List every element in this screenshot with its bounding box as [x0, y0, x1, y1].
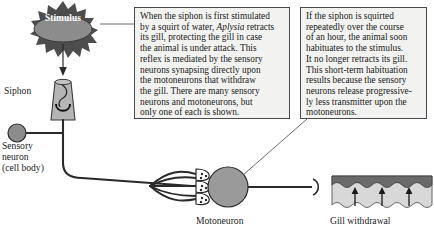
callout-line: motoneurons.: [306, 107, 422, 118]
sensory-neuron-label-line2: neuron: [2, 151, 44, 162]
callout-line: the animal is under attack. This: [140, 43, 285, 54]
callout-line: habituates to the stimulus.: [306, 43, 422, 54]
sensory-neuron-label: Sensory neuron (cell body): [2, 140, 44, 173]
gill-withdrawal-label: Gill withdrawal: [330, 215, 390, 226]
synapse-terminals: [196, 169, 209, 205]
figure-canvas: When the siphon is first stimulated by a…: [0, 0, 434, 236]
axon-terminal-branches: [150, 172, 196, 201]
motoneuron-axon-terminal: [313, 179, 318, 195]
siphon-label: Siphon: [4, 85, 31, 96]
callout-line: reflex is mediated by the sensory: [140, 54, 285, 65]
callout-line: by a squirt of water, Aplysia retracts: [140, 22, 285, 33]
siphon-shape: [51, 79, 75, 120]
callout-line: results because the sensory: [306, 75, 422, 86]
habituation-description-callout: If the siphon is squirted repeatedly ove…: [300, 7, 427, 119]
callout-line: ly less transmitter upon the: [306, 97, 422, 108]
habituation-leader-line: [243, 119, 307, 175]
motoneuron-soma: [208, 167, 248, 207]
stimulus-starburst-icon: [30, 1, 98, 58]
callout-line: If the siphon is squirted: [306, 11, 422, 22]
sensory-neuron-label-line1: Sensory: [2, 140, 44, 151]
callout-line: repeatedly over the course: [306, 22, 422, 33]
callout-line: This short-term habituation: [306, 65, 422, 76]
callout-line: It no longer retracts its gill.: [306, 54, 422, 65]
motoneuron-label: Motoneuron: [196, 215, 243, 226]
callout-line: of an hour, the animal soon: [306, 32, 422, 43]
reflex-description-callout: When the siphon is first stimulated by a…: [134, 7, 290, 119]
callout-line: the motoneurons that withdraw: [140, 75, 285, 86]
sensory-axon: [63, 120, 192, 186]
callout-line: neurons release progressive-: [306, 86, 422, 97]
callout-line: neurons synapsing directly upon: [140, 65, 285, 76]
callout-line: only one of each is shown.: [140, 107, 285, 118]
callout-line: its gill, protecting the gill in case: [140, 32, 285, 43]
callout-line: the gill. There are many sensory: [140, 86, 285, 97]
stimulus-label: Stimulus: [34, 13, 92, 24]
sensory-neuron-label-line3: (cell body): [2, 162, 44, 173]
callout-line: neurons and motoneurons, but: [140, 97, 285, 108]
callout-line: When the siphon is first stimulated: [140, 11, 285, 22]
